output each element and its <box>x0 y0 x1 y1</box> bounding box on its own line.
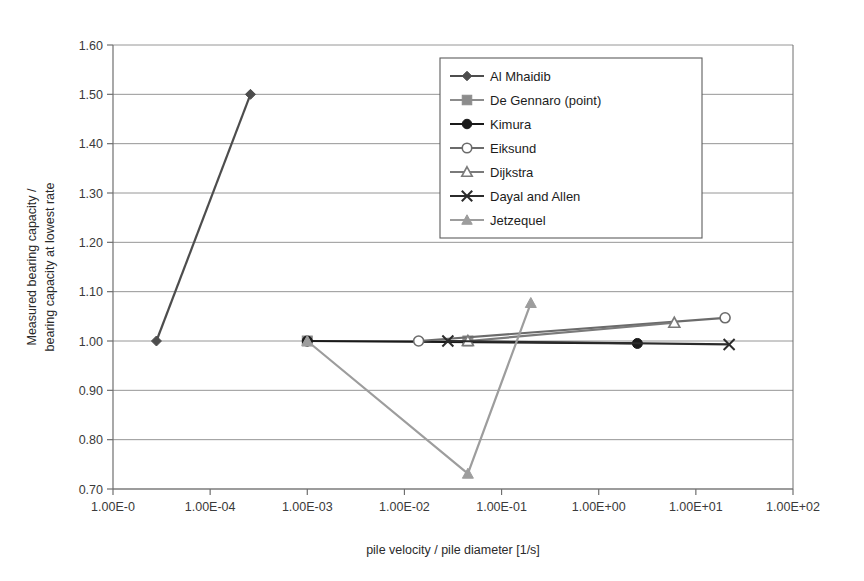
y-tick-label: 1.30 <box>79 187 103 201</box>
x-tick-label: 1.00E+00 <box>572 500 626 514</box>
legend: Al MhaidibDe Gennaro (point)KimuraEiksun… <box>440 58 702 238</box>
y-tick-label: 0.90 <box>79 384 103 398</box>
y-tick-label: 1.00 <box>79 335 103 349</box>
diamond-marker <box>245 89 255 99</box>
series-marker-circle-open <box>414 336 424 346</box>
y-tick-label: 1.60 <box>79 39 103 53</box>
x-tick-label: 1.00E+01 <box>669 500 723 514</box>
circle-open-marker <box>414 336 424 346</box>
series-line <box>419 318 725 341</box>
y-axis-title-line1: Measured bearing capacity / <box>25 188 39 346</box>
y-tick-label: 1.20 <box>79 236 103 250</box>
circle-filled-marker <box>462 119 472 129</box>
y-tick-label: 0.70 <box>79 483 103 497</box>
circle-open-marker <box>462 143 472 153</box>
y-tick-label: 1.40 <box>79 137 103 151</box>
legend-label: Jetzequel <box>490 213 546 228</box>
triangle-filled-marker <box>525 298 536 308</box>
y-axis-title-line2: bearing capacity at lowest rate <box>43 183 57 352</box>
series-marker-diamond <box>245 89 255 99</box>
legend-label: Dayal and Allen <box>490 189 580 204</box>
y-tick-label: 1.10 <box>79 285 103 299</box>
x-tick-label: 1.00E-01 <box>476 500 527 514</box>
data-series[interactable] <box>151 89 255 346</box>
series-marker-triangle-filled <box>525 298 536 308</box>
x-tick-label: 1.00E-04 <box>185 500 236 514</box>
legend-label: Eiksund <box>490 141 536 156</box>
x-tick-label: 1.00E-02 <box>379 500 430 514</box>
legend-label: De Gennaro (point) <box>490 93 601 108</box>
data-series[interactable] <box>302 298 537 479</box>
legend-label: Dijkstra <box>490 165 534 180</box>
x-axis: 1.00E-01.00E-041.00E-031.00E-021.00E-011… <box>91 489 820 514</box>
x-tick-label: 1.00E+02 <box>766 500 820 514</box>
series-marker-circle-open <box>462 143 472 153</box>
series-line <box>468 323 674 341</box>
circle-open-marker <box>720 313 730 323</box>
series-marker-square <box>462 95 472 105</box>
y-tick-label: 0.80 <box>79 433 103 447</box>
series-line <box>156 94 250 341</box>
square-marker <box>462 95 472 105</box>
series-marker-diamond <box>151 336 161 346</box>
chart-figure: 0.700.800.901.001.101.201.301.401.501.60… <box>0 0 864 581</box>
y-axis: 0.700.800.901.001.101.201.301.401.501.60 <box>79 39 113 497</box>
series-marker-circle-open <box>720 313 730 323</box>
series-marker-circle-filled <box>462 119 472 129</box>
legend-label: Kimura <box>490 117 532 132</box>
legend-label: Al Mhaidib <box>490 69 551 84</box>
diamond-marker <box>151 336 161 346</box>
x-tick-label: 1.00E-03 <box>282 500 333 514</box>
x-tick-label: 1.00E-0 <box>91 500 135 514</box>
x-axis-title: pile velocity / pile diameter [1/s] <box>366 543 540 557</box>
line-chart: 0.700.800.901.001.101.201.301.401.501.60… <box>0 0 864 581</box>
series-line <box>307 303 531 474</box>
y-tick-label: 1.50 <box>79 88 103 102</box>
